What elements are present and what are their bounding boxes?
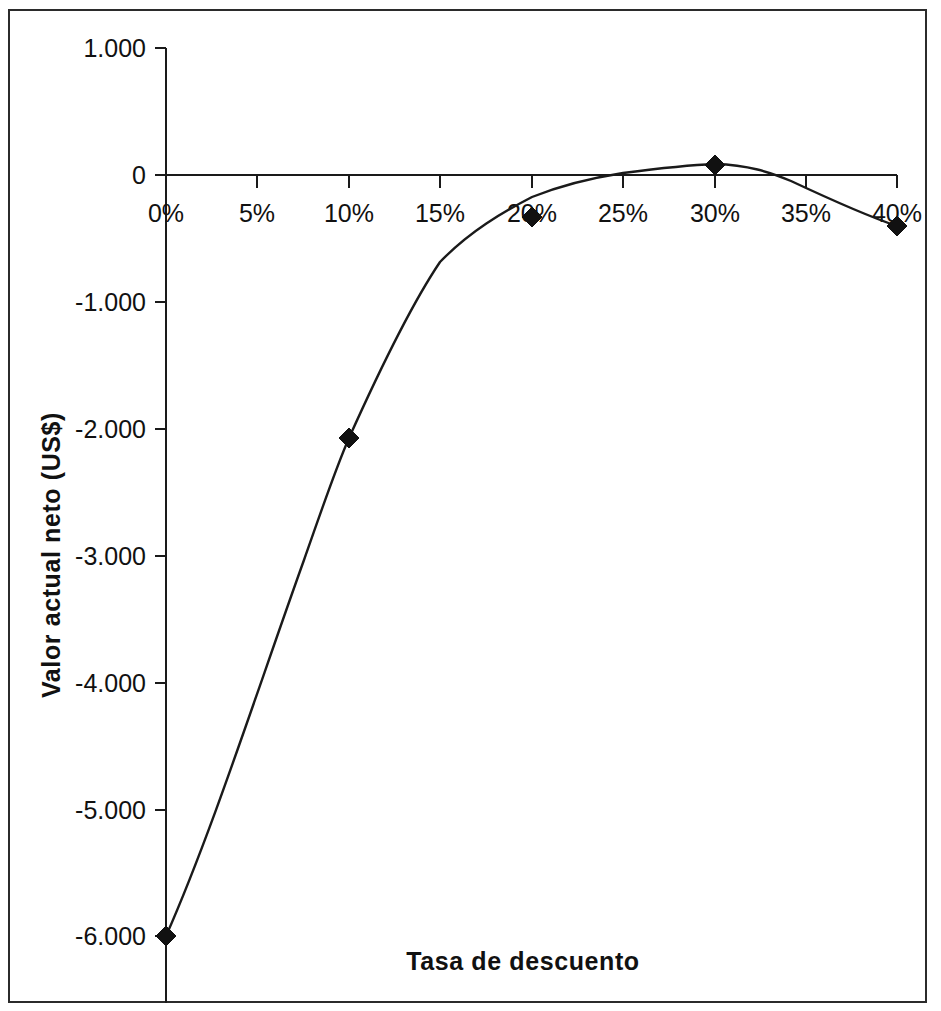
y-axis-tick-labels: 1.000 0 -1.000 -2.000 -3.000 -4.000 -5.0…	[75, 34, 146, 950]
x-axis-ticks	[166, 175, 897, 188]
y-axis-title: Valor actual neto (US$)	[37, 412, 65, 698]
data-point-10pct[interactable]	[339, 428, 359, 448]
y-axis-ticks	[155, 48, 166, 936]
data-point-markers	[156, 155, 907, 946]
y-label-0: 0	[132, 161, 146, 189]
x-axis-title: Tasa de descuento	[406, 947, 639, 975]
y-label-minus6000: -6.000	[75, 922, 146, 950]
y-label-minus2000: -2.000	[75, 415, 146, 443]
y-label-minus4000: -4.000	[75, 669, 146, 697]
x-label-35pct: 35%	[781, 199, 831, 227]
npv-curve	[166, 164, 897, 936]
x-label-15pct: 15%	[415, 199, 465, 227]
x-label-0pct: 0%	[148, 199, 184, 227]
chart-page: 1.000 0 -1.000 -2.000 -3.000 -4.000 -5.0…	[0, 0, 941, 1011]
x-label-30pct: 30%	[690, 199, 740, 227]
x-label-10pct: 10%	[324, 199, 374, 227]
x-label-5pct: 5%	[239, 199, 275, 227]
y-label-minus5000: -5.000	[75, 796, 146, 824]
y-label-1000: 1.000	[83, 34, 146, 62]
data-point-0pct[interactable]	[156, 926, 176, 946]
npv-line-chart: 1.000 0 -1.000 -2.000 -3.000 -4.000 -5.0…	[0, 0, 941, 1011]
y-label-minus3000: -3.000	[75, 542, 146, 570]
y-label-minus1000: -1.000	[75, 288, 146, 316]
x-label-25pct: 25%	[598, 199, 648, 227]
data-point-30pct[interactable]	[705, 155, 725, 175]
